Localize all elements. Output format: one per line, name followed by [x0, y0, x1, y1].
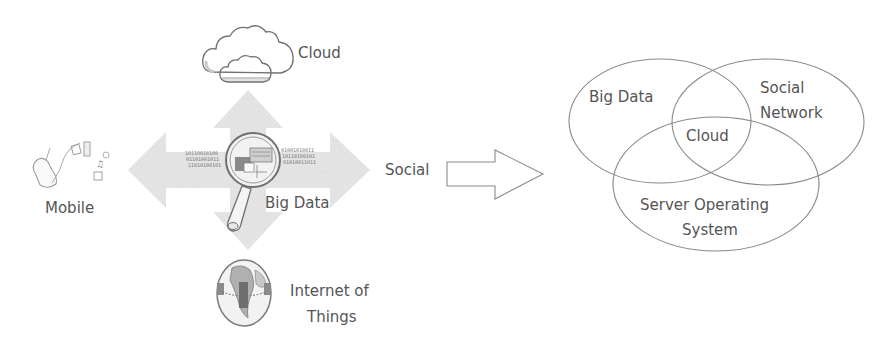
right-arrow-outline-icon	[447, 150, 543, 199]
cloud-label: Cloud	[298, 44, 341, 62]
binary-stream-right: 01001010011 10110100101 01010011011	[281, 147, 316, 165]
venn-label-social-line2: Network	[760, 104, 823, 122]
venn-label-big-data: Big Data	[589, 88, 654, 106]
mobile-apps-icon: ♫	[33, 142, 109, 187]
venn-label-server-os-line1: Server Operating	[640, 196, 769, 214]
internet-of-things-label-line2: Things	[306, 308, 357, 326]
binary-text: 01010011011	[283, 159, 316, 165]
internet-of-things-label-line1: Internet of	[290, 282, 370, 300]
venn-circle-social-network	[672, 59, 864, 185]
venn-label-cloud-intersection: Cloud	[686, 127, 729, 145]
mobile-label: Mobile	[45, 199, 94, 217]
diagram-canvas: 10110010100 01101001011 11010100101 0100…	[0, 0, 895, 344]
big-data-label: Big Data	[265, 194, 330, 212]
binary-stream-left: 10110010100 01101001011 11010100101	[185, 150, 221, 168]
left-panel: 10110010100 01101001011 11010100101 0100…	[33, 26, 429, 326]
social-label: Social	[385, 161, 429, 179]
venn-circle-big-data	[569, 59, 751, 183]
venn-diagram: Big Data Social Network Cloud Server Ope…	[569, 59, 864, 251]
venn-label-server-os-line2: System	[682, 221, 738, 239]
globe-icon	[217, 260, 271, 326]
venn-label-social-line1: Social	[760, 79, 804, 97]
cloud-icon	[203, 26, 293, 82]
binary-text: 11010100101	[188, 162, 221, 168]
music-note-icon: ♫	[96, 159, 104, 169]
